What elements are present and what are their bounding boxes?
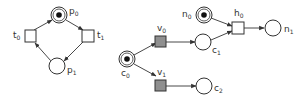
place-p0: p0 (51, 6, 79, 23)
right-net: c0 v0 v1 c1 c2 n0 (119, 7, 294, 94)
transition-v0: v0 (155, 23, 166, 47)
svg-text:p0: p0 (69, 6, 79, 17)
svg-text:n0: n0 (182, 9, 192, 20)
arc-c0-v1 (134, 64, 156, 76)
token-icon (124, 56, 130, 62)
token-icon (201, 12, 207, 18)
token-icon (56, 12, 62, 18)
place-c2: c2 (196, 78, 223, 94)
transition-t0: t0 (13, 30, 36, 42)
arc-p0-t1 (66, 20, 83, 30)
transition-t1: t1 (82, 30, 105, 42)
arc-t0-p0 (34, 20, 52, 30)
arc-c0-v0 (134, 43, 156, 55)
arc-t1-p1 (64, 42, 83, 61)
petri-net-diagram: p0 p1 t0 t1 c0 (0, 0, 306, 100)
place-c0: c0 (119, 51, 135, 79)
svg-text:c1: c1 (212, 45, 221, 56)
svg-text:v1: v1 (157, 67, 166, 78)
place-p1: p1 (49, 58, 77, 76)
svg-text:v0: v0 (157, 23, 166, 34)
svg-text:c2: c2 (214, 83, 223, 94)
svg-text:t0: t0 (13, 30, 21, 41)
left-net: p0 p1 t0 t1 (13, 6, 105, 76)
svg-text:n1: n1 (284, 24, 294, 35)
arc-n0-h0 (211, 18, 232, 26)
svg-text:c0: c0 (121, 68, 130, 79)
transition-v1: v1 (155, 67, 166, 91)
arc-c1-h0 (211, 31, 232, 40)
place-n1: n1 (265, 20, 294, 36)
svg-text:h0: h0 (234, 8, 244, 19)
transition-h0: h0 (232, 8, 244, 34)
arc-p1-t0 (35, 43, 51, 61)
place-n0: n0 (182, 7, 212, 23)
svg-text:p1: p1 (67, 65, 77, 76)
svg-text:t1: t1 (97, 30, 105, 41)
